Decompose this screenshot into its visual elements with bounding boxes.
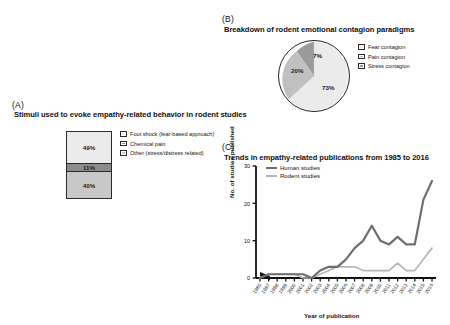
legend-label: Human studies xyxy=(280,165,320,171)
legend-label: Stress contagion xyxy=(368,63,410,69)
x-tick-label: 2016 xyxy=(424,282,434,294)
stack-segment-label: 40% xyxy=(83,182,95,189)
y-tick-label: 10 xyxy=(244,238,250,244)
stack-segment-foot-shock: 49% xyxy=(67,132,111,163)
legend-label: Foot shock (fear-based approach) xyxy=(130,131,214,137)
line-chart-svg: 0 10 20 30 19851997199819992000200120022… xyxy=(230,164,450,314)
stack-segment-label: 11% xyxy=(83,164,95,171)
pie-label-fear: 73% xyxy=(322,84,334,91)
y-tick-label: 0 xyxy=(247,275,250,281)
legend-item: Stress contagion xyxy=(358,62,410,70)
legend-swatch-icon xyxy=(358,54,365,60)
stack-segment-label: 49% xyxy=(83,144,95,151)
legend-label: Other (stress/distress related) xyxy=(130,150,204,156)
panel-c-title: Trends in empathy-related publications f… xyxy=(224,153,429,162)
line-chart: No. of studies published Human studies R… xyxy=(230,164,450,324)
legend-item: Rodent studies xyxy=(266,173,320,179)
series-line-human-studies xyxy=(260,181,432,278)
legend-item: Fear contagion xyxy=(358,43,410,51)
y-tick-label: 20 xyxy=(244,201,250,207)
legend-item: Chemical pain xyxy=(120,140,214,148)
panel-c-legend: Human studies Rodent studies xyxy=(266,165,320,181)
stack-segment-chemical-pain: 11% xyxy=(67,163,111,171)
x-axis-ticks: 1985199719981999200020012002200320042005… xyxy=(252,278,434,294)
x-axis-label: Year of publication xyxy=(304,312,359,319)
legend-item: Foot shock (fear-based approach) xyxy=(120,130,214,138)
legend-item: Other (stress/distress related) xyxy=(120,149,214,157)
panel-a-legend: Foot shock (fear-based approach) Chemica… xyxy=(120,130,214,159)
legend-item: Human studies xyxy=(266,165,320,171)
panel-a-letter: (A) xyxy=(12,100,24,110)
panel-b-legend: Fear contagion Pain contagion Stress con… xyxy=(358,43,410,72)
panel-b-title: Breakdown of rodent emotional contagion … xyxy=(224,25,414,34)
pie-chart: 73% 20% 7% xyxy=(278,40,350,112)
legend-swatch-icon xyxy=(358,44,365,50)
legend-line-icon xyxy=(266,167,277,169)
legend-item: Pain contagion xyxy=(358,53,410,61)
legend-line-icon xyxy=(266,175,277,177)
pie-label-pain: 20% xyxy=(291,67,303,74)
legend-swatch-icon xyxy=(120,131,127,137)
legend-label: Pain contagion xyxy=(368,54,405,60)
panel-b-letter: (B) xyxy=(222,14,234,24)
stack-segment-other: 40% xyxy=(67,171,111,198)
legend-swatch-icon xyxy=(120,150,127,156)
y-axis-label: No. of studies published xyxy=(228,126,235,198)
y-tick-label: 30 xyxy=(244,164,250,169)
pie-label-stress: 7% xyxy=(313,52,322,59)
legend-swatch-icon xyxy=(120,141,127,147)
y-axis-ticks: 0 10 20 30 xyxy=(244,164,256,281)
pie-circle xyxy=(278,40,350,112)
x-tick-label: 2010 xyxy=(372,282,382,294)
legend-label: Chemical pain xyxy=(130,141,165,147)
legend-label: Fear contagion xyxy=(368,44,405,50)
stacked-bar-chart: 49% 11% 40% xyxy=(66,131,112,199)
legend-swatch-icon xyxy=(358,63,365,69)
legend-label: Rodent studies xyxy=(280,173,320,179)
panel-a-title: Stimuli used to evoke empathy-related be… xyxy=(14,110,247,119)
